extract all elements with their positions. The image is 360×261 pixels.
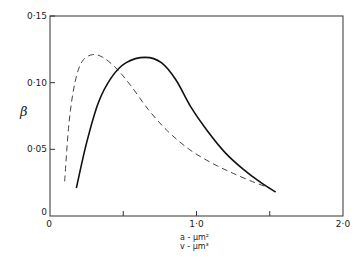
- y-tick-label: 0·15: [27, 11, 47, 21]
- x-tick-label: 1·0: [189, 219, 204, 229]
- y-tick-label: 0·10: [27, 78, 47, 88]
- x-axis-label-area: a - µm²: [180, 233, 209, 242]
- x-axis-ticks: 01·02·0: [46, 211, 350, 229]
- y-axis-label: β: [19, 104, 28, 119]
- y-axis-ticks: 00·050·100·15: [27, 11, 55, 217]
- x-tick-label: 0: [46, 219, 52, 229]
- x-axis-label-volume: v - µm³: [180, 242, 209, 251]
- chart: 00·050·100·15 01·02·0 β a - µm² v - µm³: [0, 0, 360, 261]
- x-tick-label: 2·0: [336, 219, 351, 229]
- dashed-curve: [65, 54, 270, 188]
- y-tick-label: 0: [41, 207, 47, 217]
- y-tick-label: 0·05: [27, 144, 47, 154]
- solid-curve: [76, 57, 275, 192]
